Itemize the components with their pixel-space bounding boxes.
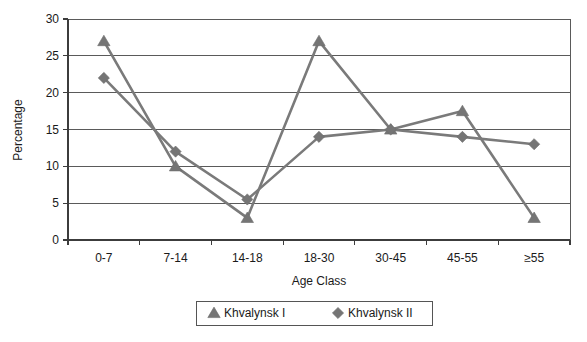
- x-tick-label: 30-45: [375, 251, 406, 265]
- y-tick-label: 0: [52, 233, 59, 247]
- chart-canvas: 051015202530 0-77-1414-1818-3030-4545-55…: [0, 0, 587, 342]
- x-tick-label: 18-30: [304, 251, 335, 265]
- x-tick-label: ≥55: [524, 251, 544, 265]
- legend-label: Khvalynsk II: [348, 306, 413, 320]
- chart-legend: Khvalynsk IKhvalynsk II: [196, 301, 432, 325]
- legend-label: Khvalynsk I: [224, 306, 285, 320]
- y-tick-label: 20: [46, 86, 60, 100]
- y-tick-label: 5: [52, 196, 59, 210]
- x-tick-label: 14-18: [232, 251, 263, 265]
- y-tick-label: 15: [46, 123, 60, 137]
- y-axis-title: Percentage: [11, 99, 25, 161]
- x-axis-title: Age Class: [292, 274, 347, 288]
- y-tick-label: 25: [46, 49, 60, 63]
- line-chart: 051015202530 0-77-1414-1818-3030-4545-55…: [0, 0, 587, 342]
- y-tick-label: 10: [46, 159, 60, 173]
- x-tick-label: 7-14: [164, 251, 188, 265]
- x-tick-label: 0-7: [95, 251, 113, 265]
- y-tick-label: 30: [46, 12, 60, 26]
- x-tick-label: 45-55: [447, 251, 478, 265]
